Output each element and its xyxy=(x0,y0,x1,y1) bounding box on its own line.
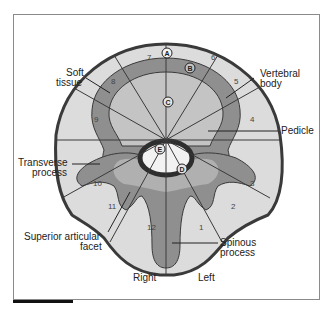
svg-text:D: D xyxy=(180,166,185,173)
label-soft-tissue-2: tissue xyxy=(56,77,83,88)
marker-d: D xyxy=(177,164,187,174)
label-spinous-process-2: process xyxy=(220,247,255,258)
zone-7: 7 xyxy=(147,53,152,62)
zone-3: 3 xyxy=(250,179,255,188)
marker-e: E xyxy=(155,144,165,154)
zone-6: 6 xyxy=(211,53,216,62)
svg-text:A: A xyxy=(165,50,170,57)
zone-2: 2 xyxy=(231,202,236,211)
label-superior-articular-facet-2: facet xyxy=(80,241,102,252)
label-transverse-process-2: process xyxy=(32,167,67,178)
svg-text:E: E xyxy=(158,146,163,153)
svg-text:B: B xyxy=(188,65,193,72)
marker-b: B xyxy=(185,63,195,73)
label-right: Right xyxy=(133,272,157,283)
zone-1: 1 xyxy=(199,223,204,232)
vertebra-diagram: 6 7 5 8 4 9 3 10 2 11 1 12 A B C E D Sof… xyxy=(0,0,333,309)
zone-10: 10 xyxy=(93,179,102,188)
svg-text:C: C xyxy=(166,99,171,106)
label-left: Left xyxy=(198,272,215,283)
zone-5: 5 xyxy=(234,77,239,86)
marker-c: C xyxy=(163,97,173,107)
zone-8: 8 xyxy=(111,77,116,86)
zone-4: 4 xyxy=(250,115,255,124)
label-vertebral-body-2: body xyxy=(260,78,282,89)
zone-9: 9 xyxy=(94,115,99,124)
zone-11: 11 xyxy=(108,202,117,211)
label-pedicle: Pedicle xyxy=(281,125,314,136)
marker-a: A xyxy=(162,48,172,58)
zone-12: 12 xyxy=(147,223,156,232)
